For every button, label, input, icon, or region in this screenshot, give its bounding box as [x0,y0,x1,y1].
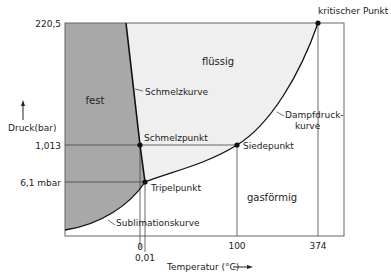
y-tick-2205: 220,5 [35,19,61,29]
melting-point-label: Schmelzpunkt [144,133,208,143]
region-solid-label: fest [86,95,105,106]
x-axis-label: Temperatur (°C) [166,262,239,272]
y-tick-1013: 1,013 [35,141,61,151]
triple-point-marker [142,179,147,184]
melting-point-marker [137,142,142,147]
arrow-up-icon [21,100,25,106]
x-tick-374: 374 [309,241,326,251]
critical-point-marker [315,20,320,25]
leader-sublimation [108,220,115,225]
y-tick-61mbar: 6,1 mbar [20,178,61,188]
triple-point-label: Tripelpunkt [150,183,201,193]
leader-vapor-curve [277,112,284,116]
boiling-point-marker [234,142,239,147]
region-liquid-label: flüssig [202,56,234,67]
x-tick-001: 0,01 [135,253,155,263]
boiling-point-label: Siedepunkt [243,141,294,151]
vapor-curve-label-1: Dampfdruck- [285,110,344,120]
vapor-curve-label-2: kurve [295,121,321,131]
critical-point-label: kritischer Punkt [318,6,389,16]
melting-curve-label: Schmelzkurve [145,87,209,97]
y-axis-label: Druck(bar) [8,123,56,133]
x-tick-0: 0 [137,242,143,252]
x-tick-100: 100 [228,241,245,251]
region-gas-label: gasförmig [247,192,297,203]
liquid-region [126,23,318,182]
phase-diagram: 220,5 1,013 6,1 mbar Druck(bar) 0 0,01 1… [0,0,391,278]
sublimation-curve-label: Sublimationskurve [116,218,200,228]
arrow-right-icon [247,265,253,269]
